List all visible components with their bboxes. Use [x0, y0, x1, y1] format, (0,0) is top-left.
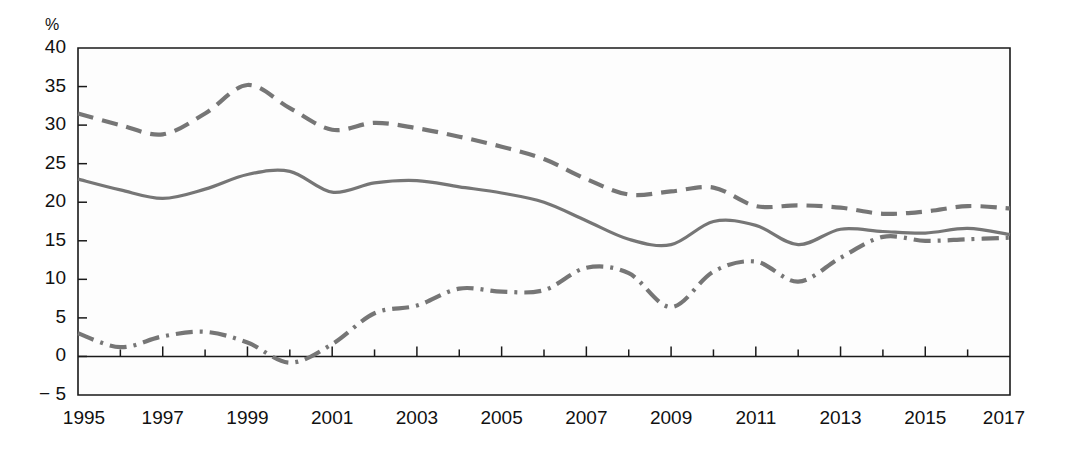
x-tick-label: 2007 [565, 407, 607, 428]
y-tick-label: − 5 [39, 383, 66, 404]
x-tick-label: 2005 [480, 407, 522, 428]
x-tick-label: 2011 [735, 407, 776, 428]
y-tick-label: 0 [55, 344, 66, 365]
y-tick-label: 30 [45, 113, 66, 134]
x-tick-label: 2017 [983, 407, 1025, 428]
y-tick-label: 10 [45, 267, 66, 288]
y-tick-label: 25 [45, 152, 66, 173]
plot-background [78, 48, 1010, 395]
y-tick-label: 20 [45, 190, 66, 211]
x-tick-label: 1999 [226, 407, 268, 428]
chart-canvas: 4035302520151050− 5 19951997199920012003… [0, 0, 1065, 450]
x-tick-label: 2009 [650, 407, 692, 428]
x-tick-label: 2003 [396, 407, 438, 428]
y-tick-label: 5 [55, 306, 66, 327]
x-tick-label: 1997 [142, 407, 184, 428]
x-tick-label: 2001 [311, 407, 353, 428]
y-tick-label: 40 [45, 36, 66, 57]
x-tick-label: 2013 [819, 407, 861, 428]
y-axis-labels: 4035302520151050− 5 [39, 36, 66, 404]
y-tick-label: 15 [45, 229, 66, 250]
line-chart: 4035302520151050− 5 19951997199920012003… [0, 0, 1065, 450]
y-tick-label: 35 [45, 75, 66, 96]
x-tick-label: 1995 [63, 407, 105, 428]
x-tick-label: 2015 [904, 407, 946, 428]
x-axis-labels: 1995199719992001200320052007200920112013… [63, 407, 1025, 428]
y-axis-unit-label: % [45, 16, 59, 33]
